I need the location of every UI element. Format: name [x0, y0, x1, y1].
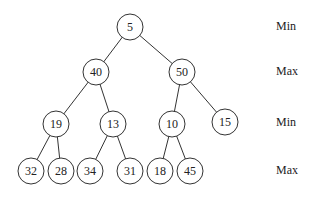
node-value: 15 [219, 115, 231, 129]
node-value: 28 [55, 164, 67, 178]
node-value: 45 [184, 164, 196, 178]
node-value: 13 [107, 117, 119, 131]
heap-node: 34 [77, 158, 103, 184]
node-value: 19 [50, 117, 62, 131]
node-value: 31 [124, 164, 136, 178]
node-value: 34 [84, 164, 96, 178]
node-value: 10 [166, 117, 178, 131]
heap-node: 10 [159, 111, 185, 137]
node-value: 40 [90, 65, 102, 79]
heap-node: 18 [147, 158, 173, 184]
heap-node: 13 [100, 111, 126, 137]
level-label: Max [276, 163, 298, 178]
node-value: 5 [127, 20, 133, 34]
node-value: 50 [176, 65, 188, 79]
node-value: 18 [154, 164, 166, 178]
node-value: 32 [25, 164, 37, 178]
heap-node: 32 [18, 158, 44, 184]
level-label: Min [276, 19, 296, 34]
heap-node: 40 [83, 59, 109, 85]
heap-node: 19 [43, 111, 69, 137]
level-label: Max [276, 64, 298, 79]
heap-node: 50 [169, 59, 195, 85]
level-label: Min [276, 115, 296, 130]
heap-node: 31 [117, 158, 143, 184]
heap-node: 5 [117, 14, 143, 40]
heap-node: 45 [177, 158, 203, 184]
heap-node: 15 [212, 109, 238, 135]
heap-tree: 5405019131015322834311845 [0, 0, 314, 198]
heap-node: 28 [48, 158, 74, 184]
